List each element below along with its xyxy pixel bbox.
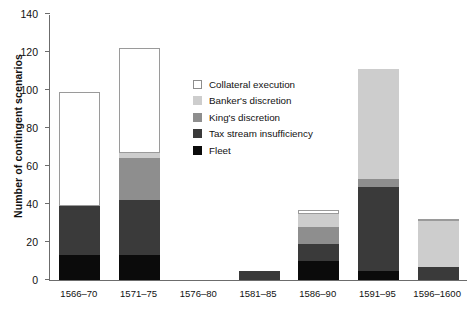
legend-item: Fleet [193,142,313,159]
bar-segment [59,255,100,280]
y-tick-label: 40 [26,199,38,210]
legend-label: King's discretion [209,112,280,123]
bar-segment [119,48,160,153]
bar-segment [59,92,100,206]
y-tick-label: 60 [26,161,38,172]
bar-segment [358,69,399,179]
bar-1571-75[interactable] [119,48,160,280]
chart-legend: Collateral executionBanker's discretionK… [193,76,313,159]
legend-item: Tax stream insufficiency [193,126,313,143]
bar-1586-90[interactable] [298,210,339,280]
y-axis-title: Number of contingent scenarios [12,26,24,246]
y-tick: 40 [45,203,50,204]
y-tick: 80 [45,127,50,128]
y-tick-label: 140 [20,9,38,20]
bar-segment [298,227,339,244]
bar-segment [358,179,399,187]
legend-item: Banker's discretion [193,93,313,110]
bar-segment [358,271,399,281]
bar-1596-1600[interactable] [418,219,459,280]
legend-label: Collateral execution [209,79,295,90]
y-tick-label: 120 [20,47,38,58]
legend-swatch-collateral [193,80,202,89]
bar-segment [239,271,280,281]
y-tick-label: 20 [26,237,38,248]
chart-figure: Number of contingent scenarios 020406080… [0,0,475,322]
bar-1581-85[interactable] [239,271,280,281]
y-tick: 120 [45,51,50,52]
bar-segment [119,158,160,200]
legend-label: Banker's discretion [209,95,291,106]
legend-swatch-tax [193,129,202,138]
bar-segment [59,206,100,255]
bar-segment [298,214,339,227]
y-tick-label: 0 [32,275,38,286]
y-tick: 60 [45,165,50,166]
legend-item: Collateral execution [193,76,313,93]
legend-item: King's discretion [193,109,313,126]
bar-segment [119,255,160,280]
bar-segment [418,221,459,267]
y-tick: 140 [45,13,50,14]
y-tick: 100 [45,89,50,90]
bar-segment [358,187,399,271]
bar-segment [298,244,339,261]
legend-swatch-king [193,113,202,122]
y-tick: 0 [45,279,50,280]
bar-segment [418,267,459,280]
legend-label: Fleet [209,145,231,156]
y-tick-label: 100 [20,85,38,96]
bar-1591-95[interactable] [358,69,399,280]
y-tick-label: 80 [26,123,38,134]
legend-swatch-banker [193,96,202,105]
x-tick-label: 1596–1600 [392,288,475,299]
bar-segment [298,261,339,280]
legend-label: Tax stream insufficiency [209,128,313,139]
legend-swatch-fleet [193,146,202,155]
bar-1566-70[interactable] [59,92,100,280]
bar-segment [119,200,160,255]
y-tick: 20 [45,241,50,242]
